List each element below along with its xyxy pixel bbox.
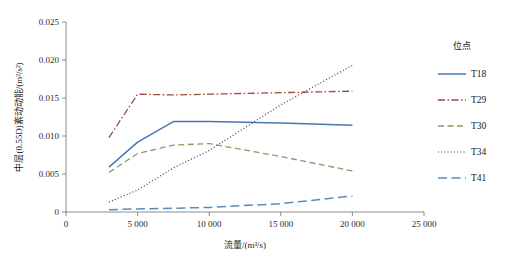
series-line-t18 — [109, 122, 352, 168]
x-tick-label: 25 000 — [412, 219, 437, 229]
y-tick-label: 0.020 — [39, 55, 60, 65]
chart-figure: 00.0050.0100.0150.0200.02505 00010 00015… — [0, 0, 522, 266]
x-tick-label: 15 000 — [268, 219, 293, 229]
series-line-t41 — [109, 196, 352, 210]
figure-caption — [0, 257, 522, 266]
axes: 00.0050.0100.0150.0200.02505 00010 00015… — [39, 17, 437, 229]
y-tick-label: 0.010 — [39, 131, 60, 141]
series-line-t34 — [109, 65, 352, 202]
legend-label-t29[interactable]: T29 — [471, 95, 487, 105]
series-line-t29 — [109, 91, 352, 137]
y-axis-title: 中层(0.55D)紊动动能/(m²/s²) — [13, 62, 24, 171]
x-tick-label: 10 000 — [197, 219, 222, 229]
chart-legend[interactable]: 位点T18T29T30T34T41 — [438, 40, 487, 183]
y-tick-label: 0.005 — [39, 169, 60, 179]
series-lines — [109, 65, 352, 209]
y-tick-label: 0.015 — [39, 93, 60, 103]
legend-label-t18[interactable]: T18 — [471, 69, 487, 79]
y-tick-label: 0.025 — [39, 17, 60, 27]
legend-label-t30[interactable]: T30 — [471, 121, 487, 131]
x-axis-title: 流量/(m³/s) — [224, 239, 266, 250]
x-tick-label: 20 000 — [340, 219, 365, 229]
legend-label-t41[interactable]: T41 — [471, 173, 487, 183]
x-tick-label: 0 — [64, 219, 69, 229]
legend-label-t34[interactable]: T34 — [471, 147, 487, 157]
y-tick-label: 0 — [55, 207, 60, 217]
legend-title: 位点 — [453, 40, 471, 51]
x-tick-label: 5 000 — [127, 219, 148, 229]
turbulent-kinetic-energy-line-chart: 00.0050.0100.0150.0200.02505 00010 00015… — [0, 0, 522, 266]
series-line-t30 — [109, 144, 352, 173]
